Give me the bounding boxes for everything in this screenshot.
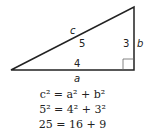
equation-squares: 5² = 4² + 3² (0, 103, 145, 117)
equation-values: 25 = 16 + 9 (0, 118, 145, 132)
label-3: 3 (123, 38, 129, 49)
label-b: b (137, 38, 143, 49)
label-a: a (74, 73, 80, 84)
right-angle-marker (123, 59, 134, 70)
triangle (11, 7, 134, 70)
label-4: 4 (74, 58, 80, 69)
label-c: c (70, 25, 76, 36)
label-5: 5 (79, 38, 85, 49)
equation-general: c² = a² + b² (0, 88, 145, 102)
